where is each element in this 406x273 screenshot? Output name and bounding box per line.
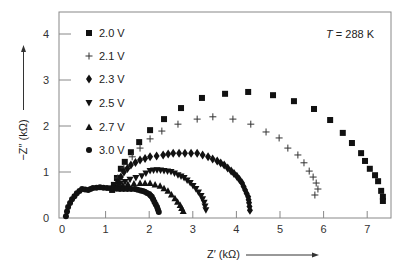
legend-label: 2.5 V (99, 97, 125, 109)
data-point (222, 91, 228, 97)
legend-item: 2.3 V (86, 73, 125, 85)
x-tick-label: 6 (321, 223, 327, 235)
legend-item: 3.0 V (86, 144, 125, 156)
triangle-up-marker-icon (86, 124, 93, 131)
y-tick-label: 3 (43, 74, 49, 86)
data-point (182, 149, 188, 158)
legend-label: 2.3 V (99, 73, 125, 85)
legend-item: 2.0 V (86, 27, 125, 39)
data-point (314, 186, 321, 193)
data-point (358, 150, 364, 156)
series-2-3v (115, 149, 253, 215)
y-tick-label: 1 (43, 166, 49, 178)
diamond-marker-icon (86, 75, 92, 84)
x-tick-label: 2 (146, 223, 152, 235)
data-point (154, 151, 160, 160)
data-point (362, 158, 368, 164)
triangle-down-marker-icon (86, 100, 93, 107)
data-point (137, 145, 144, 152)
y-tick-label: 4 (43, 28, 49, 40)
data-point (194, 116, 201, 123)
data-point (294, 151, 301, 158)
data-point (122, 159, 128, 165)
x-axis-ticks: 01234567 (59, 211, 370, 235)
x-axis-label: Z′ (kΩ) (207, 248, 240, 260)
data-point (210, 154, 216, 163)
data-point (202, 207, 209, 214)
data-point (205, 152, 211, 161)
data-point (188, 149, 194, 158)
data-point (176, 149, 182, 158)
data-point (300, 159, 307, 166)
data-point (130, 180, 137, 187)
data-point (199, 95, 205, 101)
series-2-0v (109, 89, 386, 204)
data-point (245, 89, 251, 95)
data-point (147, 127, 153, 133)
y-axis-label-group: −Z″ (kΩ) (17, 45, 29, 161)
legend-label: 2.7 V (99, 121, 125, 133)
data-point (276, 134, 283, 141)
data-point (367, 166, 373, 172)
data-point (142, 154, 148, 163)
data-point (349, 140, 355, 146)
data-point (128, 149, 134, 155)
legend-item: 2.5 V (86, 97, 126, 109)
legend-item: 2.1 V (86, 50, 126, 62)
data-point (200, 150, 206, 159)
data-point (263, 128, 270, 135)
data-point (313, 180, 320, 187)
x-tick-label: 3 (190, 223, 196, 235)
circle-marker-icon (86, 147, 92, 153)
square-marker-icon (86, 30, 92, 36)
data-point (327, 117, 333, 123)
legend-label: 2.1 V (99, 50, 125, 62)
data-point (147, 180, 154, 187)
temperature-annotation: T = 288 K (326, 28, 375, 40)
data-point (270, 92, 276, 98)
data-point (147, 152, 153, 161)
data-point (378, 188, 384, 194)
legend-label: 2.0 V (99, 27, 125, 39)
legend-label: 3.0 V (99, 144, 125, 156)
data-point (311, 106, 317, 112)
series-3-0v (63, 184, 162, 219)
data-point (229, 116, 236, 123)
data-point (161, 116, 167, 122)
data-point (310, 174, 317, 181)
data-point (170, 149, 176, 158)
data-point (311, 192, 318, 199)
y-axis-ticks: 01234 (43, 28, 71, 224)
data-point (372, 172, 378, 178)
y-axis-label: −Z″ (kΩ) (17, 119, 29, 160)
data-point (306, 168, 313, 175)
y-tick-label: 2 (43, 120, 49, 132)
x-tick-label: 5 (277, 223, 283, 235)
data-point (284, 145, 291, 152)
data-point (165, 150, 171, 159)
legend: 2.0 V2.1 V2.3 V2.5 V2.7 V3.0 V (86, 27, 126, 156)
data-point (158, 128, 165, 135)
y-tick-label: 0 (43, 212, 49, 224)
x-tick-label: 4 (233, 223, 239, 235)
data-point (152, 181, 159, 188)
data-point (178, 105, 184, 111)
data-point (147, 135, 154, 142)
y-axis-arrow-icon (21, 45, 26, 52)
x-tick-label: 7 (364, 223, 370, 235)
plus-marker-icon (86, 53, 93, 60)
data-point (136, 139, 142, 145)
x-axis-label-group: Z′ (kΩ) (207, 248, 319, 260)
data-point (247, 121, 254, 128)
data-point (380, 198, 386, 204)
nyquist-chart: 01234567 01234 2.0 V2.1 V2.3 V2.5 V2.7 V… (0, 0, 406, 273)
data-point (174, 121, 181, 128)
data-point (138, 173, 145, 180)
data-point (340, 130, 346, 136)
x-tick-label: 1 (103, 223, 109, 235)
x-tick-label: 0 (59, 223, 65, 235)
data-point (375, 178, 381, 184)
legend-item: 2.7 V (86, 121, 126, 133)
data-point (291, 98, 297, 104)
x-axis-arrow-icon (312, 253, 319, 258)
